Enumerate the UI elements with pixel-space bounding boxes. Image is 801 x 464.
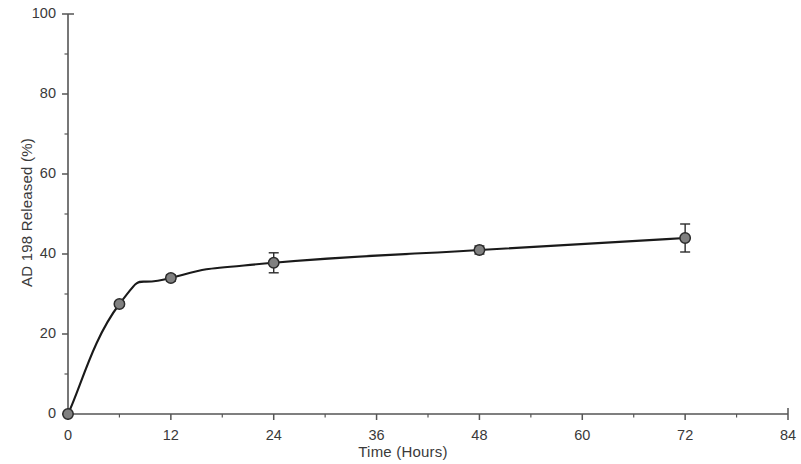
y-tick-label: 100	[14, 5, 56, 21]
x-tick-label: 60	[562, 427, 602, 443]
y-tick-label: 0	[14, 405, 56, 421]
x-tick-label: 0	[48, 427, 88, 443]
error-bars	[114, 224, 690, 306]
x-tick-label: 12	[151, 427, 191, 443]
x-tick-label: 72	[665, 427, 705, 443]
y-tick-label: 80	[14, 85, 56, 101]
major-ticks	[62, 14, 788, 420]
x-tick-label: 48	[459, 427, 499, 443]
x-tick-label: 36	[357, 427, 397, 443]
y-tick-label: 60	[14, 165, 56, 181]
y-tick-label: 20	[14, 325, 56, 341]
data-curve	[68, 238, 685, 414]
x-tick-label: 24	[254, 427, 294, 443]
minor-ticks	[65, 54, 737, 418]
data-markers	[63, 233, 691, 419]
x-tick-label: 84	[768, 427, 801, 443]
axis-lines	[68, 14, 788, 414]
y-tick-label: 40	[14, 245, 56, 261]
